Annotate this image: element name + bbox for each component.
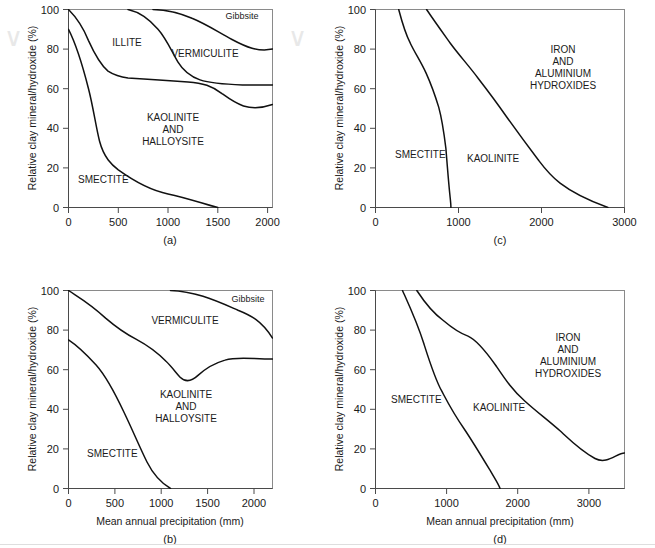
y-axis-title-a: Relative clay mineral/hydroxide (%) bbox=[26, 26, 38, 191]
x-tick-label: 0 bbox=[65, 216, 71, 228]
y-tick-label: 60 bbox=[47, 83, 59, 95]
region-label-halloysite: HALLOYSITE bbox=[142, 136, 204, 147]
x-tick-label: 3000 bbox=[612, 216, 636, 228]
y-ticks-b: 100 80 60 40 20 0 bbox=[41, 285, 69, 495]
clay-mineral-figure: ∨ ∨ 100 80 60 40 20 bbox=[0, 0, 655, 548]
y-tick-label: 60 bbox=[47, 364, 59, 376]
plot-frame-d bbox=[376, 291, 625, 489]
x-tick-label: 1000 bbox=[156, 216, 180, 228]
region-label-gibbsite: Gibbsite bbox=[225, 11, 258, 21]
x-tick-label: 0 bbox=[372, 497, 378, 509]
x-ticks-c: 0 1000 2000 3000 bbox=[372, 208, 636, 229]
y-tick-label: 0 bbox=[53, 483, 59, 495]
region-label-kaolinite: KAOLINITE bbox=[147, 112, 200, 123]
x-ticks-a: 0 500 1000 1500 2000 bbox=[65, 208, 279, 229]
y-tick-label: 100 bbox=[41, 4, 59, 16]
x-tick-label: 0 bbox=[372, 216, 378, 228]
footer-divider bbox=[0, 544, 655, 545]
x-tick-label: 2000 bbox=[242, 497, 266, 509]
region-label-smectite: SMECTITE bbox=[395, 149, 446, 160]
region-label-illite: ILLITE bbox=[112, 37, 142, 48]
x-tick-label: 2000 bbox=[529, 216, 553, 228]
region-label-aluminium: ALUMINIUM bbox=[535, 68, 591, 79]
region-label-hydroxides: HYDROXIDES bbox=[535, 368, 601, 379]
x-tick-label: 1500 bbox=[195, 497, 219, 509]
region-label-smectite: SMECTITE bbox=[87, 448, 138, 459]
panel-caption-c: (c) bbox=[494, 234, 507, 246]
y-tick-label: 40 bbox=[354, 122, 366, 134]
region-label-vermiculite: VERMICULITE bbox=[151, 315, 219, 326]
y-tick-label: 80 bbox=[47, 43, 59, 55]
y-tick-label: 40 bbox=[354, 403, 366, 415]
y-tick-label: 100 bbox=[41, 285, 59, 297]
region-label-halloysite: HALLOYSITE bbox=[155, 413, 217, 424]
y-tick-label: 20 bbox=[47, 162, 59, 174]
y-tick-label: 40 bbox=[47, 122, 59, 134]
x-tick-label: 1500 bbox=[206, 216, 230, 228]
y-tick-label: 0 bbox=[360, 202, 366, 214]
region-label-smectite: SMECTITE bbox=[391, 394, 442, 405]
region-label-and: AND bbox=[175, 401, 196, 412]
region-label-aluminium: ALUMINIUM bbox=[540, 356, 596, 367]
x-tick-label: 1000 bbox=[149, 497, 173, 509]
region-label-smectite: SMECTITE bbox=[78, 174, 129, 185]
x-axis-title-b: Mean annual precipitation (mm) bbox=[96, 515, 244, 527]
y-tick-label: 80 bbox=[354, 324, 366, 336]
region-label-kaolinite: KAOLINITE bbox=[160, 389, 213, 400]
y-tick-label: 20 bbox=[354, 162, 366, 174]
y-tick-label: 80 bbox=[47, 324, 59, 336]
y-tick-label: 0 bbox=[53, 202, 59, 214]
x-tick-label: 3000 bbox=[577, 497, 601, 509]
x-tick-label: 1000 bbox=[434, 497, 458, 509]
y-ticks-a: 100 80 60 40 20 0 bbox=[41, 4, 69, 214]
region-label-kaolinite: KAOLINITE bbox=[473, 402, 526, 413]
y-tick-label: 40 bbox=[47, 403, 59, 415]
y-tick-label: 20 bbox=[354, 443, 366, 455]
y-tick-label: 100 bbox=[348, 4, 366, 16]
x-tick-label: 0 bbox=[65, 497, 71, 509]
y-axis-title-c: Relative clay mineral/hydroxide (%) bbox=[333, 26, 345, 191]
panel-caption-a: (a) bbox=[163, 234, 176, 246]
panel-b: 100 80 60 40 20 0 0 500 1000 1500 2000 bbox=[0, 281, 330, 548]
curve-smectite-kaolinite-c bbox=[399, 10, 451, 208]
x-tick-label: 2000 bbox=[505, 497, 529, 509]
y-tick-label: 20 bbox=[47, 443, 59, 455]
curve-kaolinite-hydroxide-c bbox=[427, 10, 608, 208]
x-tick-label: 500 bbox=[106, 497, 124, 509]
panel-d: 100 80 60 40 20 0 0 1000 2000 3000 bbox=[325, 281, 655, 548]
region-label-kaolinite: KAOLINITE bbox=[467, 153, 520, 164]
x-axis-title-d: Mean annual precipitation (mm) bbox=[426, 515, 574, 527]
y-tick-label: 100 bbox=[348, 285, 366, 297]
curve-vermiculite-lower-b bbox=[69, 291, 273, 381]
x-ticks-d: 0 1000 2000 3000 bbox=[372, 489, 601, 510]
x-ticks-b: 0 500 1000 1500 2000 bbox=[65, 489, 266, 510]
y-tick-label: 0 bbox=[360, 483, 366, 495]
region-label-vermiculite: VERMICULITE bbox=[171, 48, 239, 59]
y-tick-label: 60 bbox=[354, 83, 366, 95]
y-ticks-c: 100 80 60 40 20 0 bbox=[348, 4, 376, 214]
panel-c: 100 80 60 40 20 0 0 1000 2000 3000 bbox=[325, 0, 655, 262]
region-label-gibbsite: Gibbsite bbox=[231, 294, 264, 304]
y-tick-label: 80 bbox=[354, 43, 366, 55]
x-tick-label: 500 bbox=[109, 216, 127, 228]
region-label-iron: IRON bbox=[551, 44, 576, 55]
y-axis-title-b: Relative clay mineral/hydroxide (%) bbox=[26, 307, 38, 472]
x-tick-label: 1000 bbox=[446, 216, 470, 228]
region-label-hydroxides: HYDROXIDES bbox=[530, 80, 596, 91]
y-axis-title-d: Relative clay mineral/hydroxide (%) bbox=[333, 307, 345, 472]
y-ticks-d: 100 80 60 40 20 0 bbox=[348, 285, 376, 495]
x-tick-label: 2000 bbox=[255, 216, 279, 228]
region-label-and: AND bbox=[162, 124, 183, 135]
region-label-and: AND bbox=[552, 56, 573, 67]
curve-smectite-kaolinite-d bbox=[403, 291, 501, 489]
region-label-iron: IRON bbox=[556, 332, 581, 343]
panel-a: 100 80 60 40 20 0 0 500 1000 1500 2000 bbox=[0, 0, 330, 262]
y-tick-label: 60 bbox=[354, 364, 366, 376]
region-label-and: AND bbox=[557, 344, 578, 355]
